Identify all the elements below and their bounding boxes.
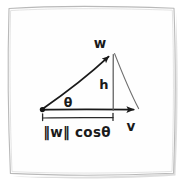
label-theta: θ: [64, 95, 73, 110]
paper-sheet: [8, 6, 175, 175]
label-projection: ‖w‖ cosθ: [43, 124, 111, 141]
label-w: w: [94, 35, 106, 51]
origin-point: [40, 107, 45, 112]
vector-projection-figure: w v h θ ‖w‖ cosθ: [0, 0, 186, 184]
label-v: v: [127, 118, 136, 134]
diagram-canvas: w v h θ ‖w‖ cosθ: [0, 0, 186, 184]
label-h: h: [99, 77, 108, 92]
